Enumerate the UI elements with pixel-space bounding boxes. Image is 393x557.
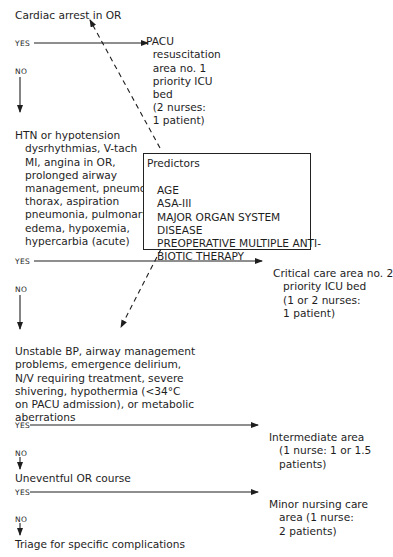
yes-label: YES <box>15 421 30 430</box>
no-label: NO <box>15 515 27 524</box>
condition-line: hypercarbia (acute) <box>15 235 150 248</box>
yes-label: YES <box>15 257 30 266</box>
condition-line: problems, emergence delirium, <box>15 358 195 371</box>
condition-pacu-events: Unstable BP, airway managementproblems, … <box>15 332 195 438</box>
condition-line: pneumonia, pulmonary <box>15 208 150 221</box>
outcome-line: (1 or 2 nurses: <box>273 294 393 307</box>
predictor-item: AGE <box>157 184 321 197</box>
outcome-line: bed <box>146 88 221 101</box>
predictor-item: MAJOR ORGAN SYSTEM <box>157 211 321 224</box>
outcome-line: area (1 nurse: <box>269 511 368 524</box>
condition-uneventful: Uneventful OR course <box>15 472 131 485</box>
outcome-line: priority ICU <box>146 75 221 88</box>
condition-line: thorax, aspiration <box>15 195 150 208</box>
condition-line: HTN or hypotension <box>15 129 150 142</box>
outcome-line: 1 patient) <box>273 307 393 320</box>
outcome-line: Minor nursing care <box>269 498 368 511</box>
outcome-line: 1 patient) <box>146 114 221 127</box>
outcome-line: patients) <box>269 458 371 471</box>
condition-line: management, pneumo- <box>15 182 150 195</box>
outcome-line: priority ICU bed <box>273 280 393 293</box>
condition-line: Unstable BP, airway management <box>15 345 195 358</box>
predictor-item: PREOPERATIVE MULTIPLE ANTI- <box>157 237 321 250</box>
outcome-line: Intermediate area <box>269 431 371 444</box>
condition-line: prolonged airway <box>15 169 150 182</box>
condition-line: N/V requiring treatment, severe <box>15 372 195 385</box>
outcome-line: 2 patients) <box>269 525 368 538</box>
outcome-pacu-resuscitation: PACU resuscitation area no. 1 priority I… <box>146 22 221 141</box>
outcome-critical-care: Critical care area no. 2 priority ICU be… <box>273 254 393 333</box>
outcome-minor-nursing: Minor nursing care area (1 nurse: 2 pati… <box>269 485 368 551</box>
end-node: Triage for specific complications <box>15 538 185 551</box>
outcome-intermediate-area: Intermediate area (1 nurse: 1 or 1.5 pat… <box>269 418 371 484</box>
condition-line: MI, angina in OR, <box>15 156 150 169</box>
predictors-title: Predictors <box>147 157 200 170</box>
outcome-line: (1 nurse: 1 or 1.5 <box>269 444 371 457</box>
outcome-line: resuscitation <box>146 48 221 61</box>
condition-line: edema, hypoxemia, <box>15 222 150 235</box>
outcome-line: Critical care area no. 2 <box>273 267 393 280</box>
condition-critical-events: HTN or hypotension dysrhythmias, V-tach … <box>15 116 150 261</box>
condition-line: shivering, hypothermia (<34°C <box>15 385 195 398</box>
condition-line: aberrations <box>15 411 195 424</box>
outcome-line: PACU <box>146 35 221 48</box>
yes-label: YES <box>15 39 30 48</box>
predictor-item: ASA-III <box>157 197 321 210</box>
outcome-line: area no. 1 <box>146 62 221 75</box>
no-label: NO <box>15 285 27 294</box>
predictors-box: Predictors AGEASA-IIIMAJOR ORGAN SYSTEMD… <box>143 153 311 250</box>
yes-label: YES <box>15 488 30 497</box>
condition-line: dysrhythmias, V-tach <box>15 142 150 155</box>
condition-line: on PACU admission), or metabolic <box>15 398 195 411</box>
predictor-item: DISEASE <box>157 224 321 237</box>
start-node: Cardiac arrest in OR <box>15 9 121 22</box>
outcome-line: (2 nurses: <box>146 101 221 114</box>
no-label: NO <box>15 449 27 458</box>
no-label: NO <box>15 67 27 76</box>
